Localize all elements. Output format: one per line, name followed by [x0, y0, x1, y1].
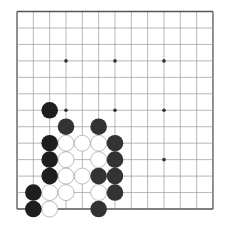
black-stone[interactable]	[41, 102, 58, 119]
black-stone[interactable]	[107, 151, 124, 168]
star-point	[162, 108, 166, 112]
black-stone[interactable]	[58, 118, 75, 135]
star-point	[162, 59, 166, 63]
white-stone[interactable]	[91, 185, 107, 201]
black-stone[interactable]	[41, 168, 58, 185]
star-point	[64, 108, 68, 112]
star-point	[113, 108, 117, 112]
black-stone[interactable]	[90, 201, 107, 218]
black-stone[interactable]	[90, 118, 107, 135]
white-stone[interactable]	[91, 152, 107, 168]
white-stone[interactable]	[58, 168, 74, 184]
white-stone[interactable]	[58, 185, 74, 201]
star-point	[64, 59, 68, 63]
white-stone[interactable]	[42, 201, 58, 217]
star-point	[162, 158, 166, 162]
black-stone[interactable]	[41, 151, 58, 168]
white-stone[interactable]	[74, 135, 90, 151]
go-board[interactable]	[0, 0, 228, 229]
black-stone[interactable]	[41, 135, 58, 152]
black-stone[interactable]	[107, 135, 124, 152]
black-stone[interactable]	[25, 184, 42, 201]
black-stone[interactable]	[107, 184, 124, 201]
black-stone[interactable]	[25, 201, 42, 218]
black-stone[interactable]	[107, 168, 124, 185]
white-stone[interactable]	[74, 168, 90, 184]
black-stone[interactable]	[90, 168, 107, 185]
white-stone[interactable]	[42, 185, 58, 201]
white-stone[interactable]	[58, 135, 74, 151]
star-point	[113, 59, 117, 63]
white-stone[interactable]	[91, 135, 107, 151]
white-stone[interactable]	[58, 152, 74, 168]
